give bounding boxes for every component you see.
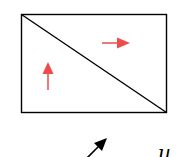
diagonal-line [22,15,167,113]
diagram-canvas [0,0,179,157]
variable-label: u [158,143,171,157]
right-arrow-icon [102,38,130,49]
up-arrow-icon [43,62,54,90]
diagonal-arrow-icon [86,138,107,157]
